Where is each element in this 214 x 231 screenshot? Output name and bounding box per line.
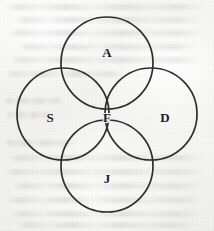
center-region-label: F (103, 110, 111, 125)
circle-bottom[interactable] (61, 120, 153, 212)
venn-diagram: ASDJF (0, 0, 214, 231)
circle-label-right: D (160, 110, 169, 125)
circle-label-bottom: J (104, 171, 111, 186)
circle-right[interactable] (105, 68, 197, 160)
labels-group: ASDJF (46, 45, 169, 186)
circle-left[interactable] (17, 68, 109, 160)
figure-canvas: ASDJF (0, 0, 214, 231)
circle-label-top: A (102, 45, 112, 60)
circle-label-left: S (46, 110, 53, 125)
circle-top[interactable] (61, 17, 153, 109)
